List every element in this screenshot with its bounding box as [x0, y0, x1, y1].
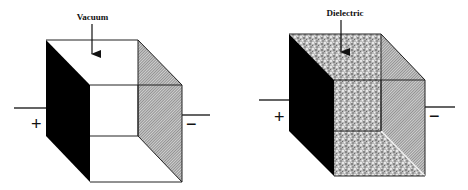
positive-plate — [46, 40, 90, 182]
negative-sign: − — [429, 106, 440, 126]
positive-sign: + — [274, 107, 285, 127]
capacitor-diagram: + − Vacuum + − Dielectric — [0, 0, 468, 190]
positive-sign: + — [31, 114, 42, 134]
dielectric-label: Dielectric — [327, 8, 364, 18]
negative-plate — [138, 40, 182, 182]
dielectric-front — [334, 80, 381, 131]
vacuum-capacitor: + − Vacuum — [14, 12, 210, 182]
negative-sign: − — [186, 114, 197, 134]
dielectric-capacitor: + − Dielectric — [259, 8, 455, 176]
vacuum-label: Vacuum — [77, 12, 109, 22]
